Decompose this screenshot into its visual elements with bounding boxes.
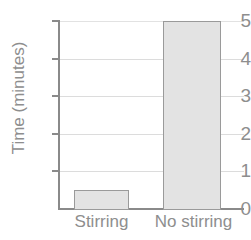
x-tick-label-stirring: Stirring xyxy=(56,212,147,232)
bar-stirring[interactable] xyxy=(74,190,129,210)
y-tick-mark-3 xyxy=(52,95,59,97)
y-axis-title: Time (minutes) xyxy=(4,0,34,203)
y-tick-mark-2 xyxy=(52,133,59,135)
y-tick-mark-4 xyxy=(52,58,59,60)
bar-no-stirring[interactable] xyxy=(163,21,221,210)
y-tick-mark-5 xyxy=(52,20,59,22)
y-tick-mark-1 xyxy=(52,170,59,172)
bar-chart: Time (minutes) 5 4 3 2 1 0 Stirring No s… xyxy=(0,0,251,240)
x-tick-label-no-stirring: No stirring xyxy=(142,212,245,232)
y-axis-line xyxy=(58,20,60,210)
